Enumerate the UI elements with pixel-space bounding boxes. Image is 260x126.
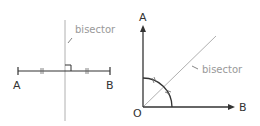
bisector-pointer-arrow bbox=[68, 38, 72, 43]
arrowhead-right-icon bbox=[228, 104, 235, 110]
diagram-canvas: bisector A B bisector A B O bbox=[0, 0, 260, 126]
left-point-b-label: B bbox=[106, 79, 114, 92]
perpendicular-bisector-diagram: bisector A B bbox=[13, 20, 116, 121]
arrowhead-up-icon bbox=[140, 25, 146, 32]
left-point-a-label: A bbox=[13, 79, 21, 92]
right-angle-mark bbox=[65, 65, 71, 71]
angle-bisector-diagram: bisector A B O bbox=[133, 11, 247, 120]
origin-o-label: O bbox=[133, 107, 142, 120]
right-point-a-label: A bbox=[139, 11, 147, 24]
bisector-pointer-arrow bbox=[192, 66, 198, 69]
right-bisector-label: bisector bbox=[202, 64, 243, 75]
right-point-b-label: B bbox=[239, 101, 247, 114]
left-bisector-label: bisector bbox=[75, 24, 116, 35]
